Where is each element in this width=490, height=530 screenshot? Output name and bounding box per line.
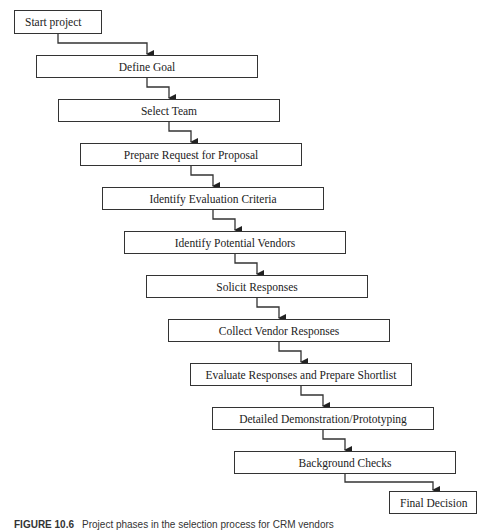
step-label: Prepare Request for Proposal: [124, 149, 258, 161]
step-prepare-rfp: Prepare Request for Proposal: [80, 143, 302, 166]
step-label: Identify Potential Vendors: [175, 237, 296, 249]
step-identify-evaluation-criteria: Identify Evaluation Criteria: [102, 187, 324, 210]
step-identify-potential-vendors: Identify Potential Vendors: [124, 231, 346, 254]
step-label: Collect Vendor Responses: [219, 325, 340, 337]
step-select-team: Select Team: [58, 99, 280, 122]
step-evaluate-responses: Evaluate Responses and Prepare Shortlist: [190, 363, 412, 386]
step-label: Identify Evaluation Criteria: [149, 193, 276, 205]
step-label: Detailed Demonstration/Prototyping: [239, 413, 407, 425]
step-detailed-demonstration: Detailed Demonstration/Prototyping: [212, 407, 434, 430]
step-label: Start project: [25, 16, 82, 28]
figure-label: FIGURE 10.6: [14, 519, 74, 530]
step-label: Background Checks: [299, 457, 392, 469]
step-final-decision: Final Decision: [389, 491, 477, 514]
step-collect-vendor-responses: Collect Vendor Responses: [168, 319, 390, 342]
figure-caption: FIGURE 10.6Project phases in the selecti…: [14, 519, 334, 530]
step-start-project: Start project: [14, 10, 102, 34]
caption-text: Project phases in the selection process …: [82, 519, 334, 530]
step-label: Select Team: [141, 105, 197, 117]
step-solicit-responses: Solicit Responses: [146, 275, 368, 298]
step-label: Evaluate Responses and Prepare Shortlist: [206, 369, 397, 381]
step-label: Solicit Responses: [216, 281, 297, 293]
step-label: Final Decision: [400, 497, 467, 509]
step-define-goal: Define Goal: [36, 55, 258, 78]
step-background-checks: Background Checks: [234, 451, 456, 474]
step-label: Define Goal: [119, 61, 176, 73]
